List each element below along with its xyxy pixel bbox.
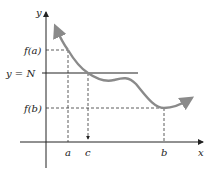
function-curve-body	[68, 50, 190, 108]
ivt-diagram: y x f(a) f(b) y = N a c b	[0, 0, 211, 182]
y-axis-label: y	[35, 7, 42, 18]
c-label: c	[85, 147, 91, 158]
x-axis-label: x	[198, 147, 204, 158]
function-curve	[56, 28, 68, 50]
a-label: a	[65, 147, 71, 158]
y-equals-n-label: y = N	[5, 68, 36, 79]
fa-label: f(a)	[23, 45, 42, 56]
diagram-canvas: y x f(a) f(b) y = N a c b	[0, 0, 211, 182]
b-label: b	[161, 147, 167, 158]
fb-label: f(b)	[23, 103, 42, 114]
